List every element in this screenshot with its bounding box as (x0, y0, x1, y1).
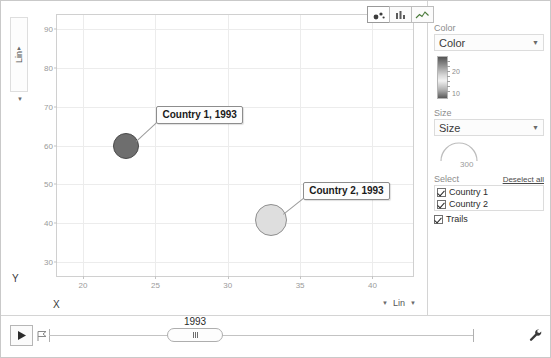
x-axis-scale-chevron-down-icon: ▼ (410, 300, 416, 306)
y-tick-label: 30 (44, 258, 53, 267)
data-point-label[interactable]: Country 1, 1993 (156, 106, 242, 124)
data-point-bubble[interactable] (255, 204, 287, 236)
x-axis-title: X (53, 299, 60, 310)
color-gradient-legend: 20 10 (437, 56, 448, 99)
play-button[interactable] (10, 325, 33, 346)
timeline-track-end (473, 329, 474, 342)
x-axis-scale-chevron-left-icon: ▼ (382, 300, 388, 306)
trails-label: Trails (446, 214, 468, 224)
y-tick-label: 80 (44, 63, 53, 72)
y-tickmark (54, 106, 57, 107)
select-section: Select Deselect all Country 1 Country 2 … (428, 174, 550, 224)
checkbox-country-1[interactable] (437, 188, 446, 197)
current-year-label: 1993 (184, 316, 206, 327)
timeline-track[interactable] (49, 335, 474, 336)
color-select-value: Color (439, 37, 465, 49)
trails-toggle[interactable]: Trails (434, 214, 544, 224)
color-section-label: Color (434, 23, 544, 33)
checkbox-trails[interactable] (434, 215, 443, 224)
y-tick-label: 40 (44, 219, 53, 228)
y-axis-title: Y (12, 273, 19, 284)
side-panel: Color Color ▼ 20 10 Size Size ▼ (427, 1, 550, 317)
size-arc-slider[interactable]: 300 (438, 140, 480, 166)
x-tickmark (83, 276, 84, 279)
data-point-bubble[interactable] (113, 133, 139, 159)
x-tick-label: 25 (151, 281, 160, 290)
x-axis-scale-label: Lin (393, 298, 405, 308)
gridline-horizontal (57, 29, 413, 30)
x-tick-label: 20 (79, 281, 88, 290)
select-section-header: Select Deselect all (434, 174, 544, 185)
y-tickmark (54, 223, 57, 224)
y-tick-label: 70 (44, 102, 53, 111)
deselect-all-link[interactable]: Deselect all (503, 175, 544, 184)
x-axis-scale-selector[interactable]: ▼ Lin ▼ (382, 298, 416, 308)
data-point-label[interactable]: Country 2, 1993 (303, 182, 389, 200)
y-tick-label: 50 (44, 180, 53, 189)
color-section: Color Color ▼ 20 10 (428, 1, 550, 99)
bar-chart-icon[interactable] (389, 6, 412, 23)
motion-chart-app: ▲ Lin ▼ Y 202530354090807060504030Countr… (0, 0, 551, 358)
line-chart-icon[interactable] (411, 6, 434, 23)
y-tick-label: 90 (44, 24, 53, 33)
timeline-slider-thumb[interactable] (167, 328, 223, 342)
y-tick-label: 60 (44, 141, 53, 150)
bubble-chart-icon[interactable] (367, 6, 390, 23)
list-item[interactable]: Country 1 (435, 186, 543, 198)
size-select-value: Size (439, 122, 460, 134)
x-tick-label: 40 (368, 281, 377, 290)
y-tickmark (54, 262, 57, 263)
size-select[interactable]: Size ▼ (434, 119, 544, 136)
size-section: Size Size ▼ 300 (428, 108, 550, 166)
chevron-down-icon: ▼ (532, 124, 539, 131)
x-tickmark (155, 276, 156, 279)
select-section-label: Select (434, 174, 459, 184)
color-legend-tick-0: 20 (452, 68, 460, 75)
y-tickmark (54, 145, 57, 146)
x-tickmark (300, 276, 301, 279)
settings-wrench-icon[interactable] (527, 327, 543, 343)
y-axis-scale-selector[interactable]: ▲ Lin (10, 17, 28, 92)
list-item-label: Country 2 (449, 199, 488, 209)
size-max-value: 300 (460, 160, 473, 169)
x-tick-label: 30 (223, 281, 232, 290)
y-axis-scale-label: Lin (14, 51, 24, 63)
gridline-horizontal (57, 146, 413, 147)
chart-type-toggle (367, 6, 434, 23)
chart-area: ▲ Lin ▼ Y 202530354090807060504030Countr… (1, 1, 429, 317)
entity-select-list[interactable]: Country 1 Country 2 (434, 185, 544, 211)
list-item[interactable]: Country 2 (435, 198, 543, 210)
x-tickmark (228, 276, 229, 279)
checkbox-country-2[interactable] (437, 200, 446, 209)
plot-frame[interactable]: 202530354090807060504030Country 1, 1993C… (56, 14, 414, 277)
color-select[interactable]: Color ▼ (434, 34, 544, 51)
gridline-horizontal (57, 262, 413, 263)
timeline-bar: 1993 (1, 315, 551, 357)
color-legend-tick-1: 10 (452, 90, 460, 97)
y-axis-scale-chevron-down-icon[interactable]: ▼ (17, 96, 23, 102)
x-tickmark (372, 276, 373, 279)
chevron-down-icon: ▼ (532, 39, 539, 46)
playback-speed-icon[interactable] (35, 329, 48, 342)
y-tickmark (54, 28, 57, 29)
y-tickmark (54, 184, 57, 185)
x-tick-label: 35 (296, 281, 305, 290)
y-tickmark (54, 67, 57, 68)
size-section-label: Size (434, 108, 544, 118)
gridline-horizontal (57, 223, 413, 224)
list-item-label: Country 1 (449, 187, 488, 197)
gridline-horizontal (57, 68, 413, 69)
